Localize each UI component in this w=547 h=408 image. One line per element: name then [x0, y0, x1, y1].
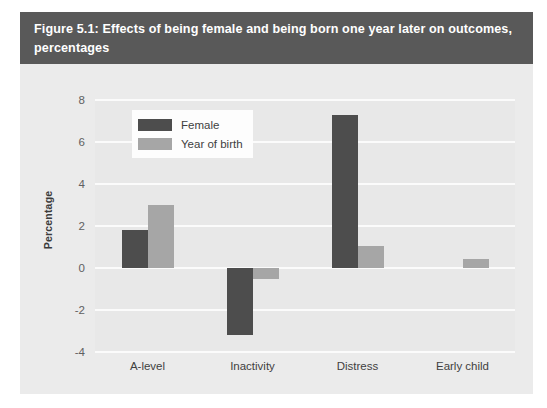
legend-label: Female [181, 119, 219, 131]
bar-year-of-birth-a-level [148, 205, 174, 268]
legend-swatch-icon [138, 119, 172, 131]
y-axis-tick-label: 0 [49, 262, 85, 274]
legend-swatch-icon [138, 138, 172, 150]
bar-female-inactivity [227, 268, 253, 335]
x-axis-tick-label: Distress [337, 360, 379, 372]
y-axis-tick-label: 8 [49, 94, 85, 106]
bar-year-of-birth-inactivity [253, 268, 279, 279]
y-axis-tick-label: 6 [49, 136, 85, 148]
legend-label: Year of birth [181, 138, 243, 150]
figure-title-bar: Figure 5.1: Effects of being female and … [20, 12, 533, 64]
gridline [95, 99, 515, 101]
legend-item: Female [138, 115, 243, 134]
y-axis-tick-label: 4 [49, 178, 85, 190]
y-axis-tick-label: -4 [49, 346, 85, 358]
legend-item: Year of birth [138, 134, 243, 153]
figure-root: Figure 5.1: Effects of being female and … [0, 0, 547, 408]
bar-female-a-level [122, 230, 148, 268]
gridline [95, 309, 515, 311]
bar-year-of-birth-distress [358, 246, 384, 268]
chart-body: Percentage 86420-2-4 A-levelInactivityDi… [20, 64, 533, 394]
x-axis-tick-label: A-level [130, 360, 165, 372]
y-axis-tick-label: 2 [49, 220, 85, 232]
gridline [95, 183, 515, 185]
gridline [95, 351, 515, 353]
y-axis-tick-label: -2 [49, 304, 85, 316]
chart-legend: FemaleYear of birth [132, 110, 253, 158]
bar-year-of-birth-early-child [463, 259, 489, 268]
bar-female-distress [332, 115, 358, 268]
x-axis-tick-label: Early child [436, 360, 489, 372]
figure-title: Figure 5.1: Effects of being female and … [34, 20, 519, 58]
x-axis-tick-label: Inactivity [230, 360, 275, 372]
